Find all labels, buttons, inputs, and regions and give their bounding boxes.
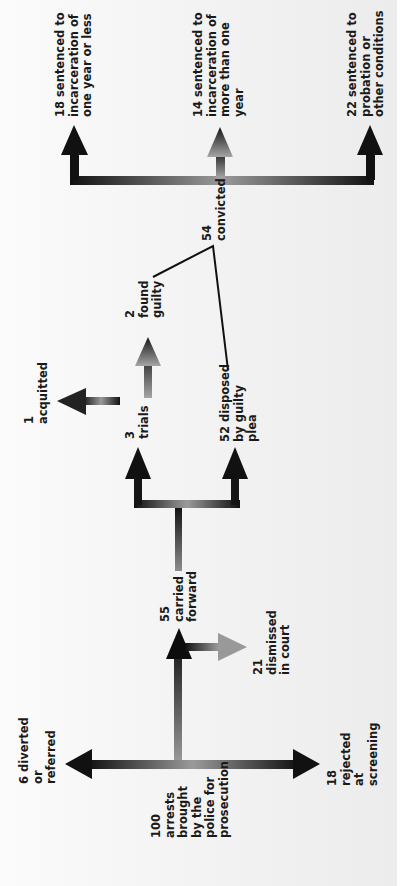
guilty-plea-text-3: plea	[246, 364, 260, 442]
arrests-text-4: police for	[204, 761, 218, 838]
trials-plea-split-arrow	[125, 447, 248, 571]
sentencing-split-arrow	[61, 125, 383, 185]
sentence-long-text-3: more than one	[219, 12, 233, 117]
rejected-text-3: screening	[367, 723, 381, 786]
sentence-long-text-2: incarceration of	[206, 12, 220, 117]
arrests-text-5: prosecution	[218, 761, 232, 838]
rejected-text-2: at	[353, 723, 367, 786]
acquitted-count: 1	[23, 362, 37, 424]
label-sentence-long: 14 sentenced to incarceration of more th…	[192, 12, 246, 117]
arrests-text-2: brought	[177, 761, 191, 838]
acquitted-arrow	[57, 388, 120, 415]
found-guilty-arrow	[135, 337, 161, 398]
sentence-probation-text-2: probation or	[360, 10, 374, 117]
sentence-short-text-3: one year or less	[81, 12, 95, 117]
sentence-probation-text-1: 22 sentenced to	[346, 10, 360, 117]
carried-forward-text-1: carried	[173, 571, 187, 622]
label-sentence-short: 18 sentenced to incarceration of one yea…	[54, 12, 95, 117]
label-convicted: 54 convicted	[201, 178, 228, 241]
diverted-text-2: or	[32, 717, 46, 784]
carried-forward-count: 55	[159, 571, 173, 622]
label-found-guilty: 2 found guilty	[124, 280, 165, 318]
dismissed-text-2: in court	[279, 610, 293, 675]
label-diverted: 6 diverted or referred	[18, 717, 59, 784]
rejected-text-1: rejected	[340, 723, 354, 786]
arrests-count: 100	[150, 761, 164, 838]
label-dismissed: 21 dismissed in court	[252, 610, 293, 675]
label-rejected: 18 rejected at screening	[326, 723, 380, 786]
rejected-count: 18	[326, 723, 340, 786]
trials-text: trials	[138, 405, 152, 439]
label-trials: 3 trials	[124, 405, 151, 439]
convicted-text: convicted	[215, 178, 229, 241]
acquitted-text: acquitted	[37, 362, 51, 424]
sentence-long-text-1: 14 sentenced to	[192, 12, 206, 117]
criminal-justice-flow-diagram: 100 arrests brought by the police for pr…	[0, 0, 407, 886]
carried-forward-arrow	[166, 628, 247, 661]
convicted-count: 54	[201, 178, 215, 241]
sentence-long-text-4: year	[233, 12, 247, 117]
label-carried-forward: 55 carried forward	[159, 571, 200, 622]
label-sentence-probation: 22 sentenced to probation or other condi…	[346, 10, 387, 117]
label-arrests: 100 arrests brought by the police for pr…	[150, 761, 231, 838]
found-guilty-count: 2	[124, 280, 138, 318]
trials-count: 3	[124, 405, 138, 439]
diverted-text-3: referred	[45, 717, 59, 784]
arrests-text-1: arrests	[164, 761, 178, 838]
label-guilty-plea: 52 disposed by guilty plea	[219, 364, 260, 442]
found-guilty-text-1: found	[138, 280, 152, 318]
carried-forward-text-2: forward	[186, 571, 200, 622]
diverted-text-1: 6 diverted	[18, 717, 32, 784]
dismissed-count: 21	[252, 610, 266, 675]
sentence-short-text-2: incarceration of	[68, 12, 82, 117]
dismissed-text-1: dismissed	[266, 610, 280, 675]
sentence-probation-text-3: other conditions	[373, 10, 387, 117]
found-guilty-text-2: guilty	[151, 280, 165, 318]
sentence-short-text-1: 18 sentenced to	[54, 12, 68, 117]
guilty-plea-text-2: by guilty	[233, 364, 247, 442]
guilty-plea-text-1: 52 disposed	[219, 364, 233, 442]
arrests-text-3: by the	[191, 761, 205, 838]
label-acquitted: 1 acquitted	[23, 362, 50, 424]
